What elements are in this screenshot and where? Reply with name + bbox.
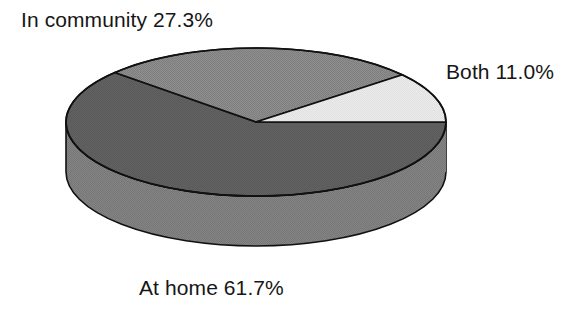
pie-chart: In community 27.3% Both 11.0% At home 61… [0, 0, 587, 313]
pie-chart-graphic [0, 0, 587, 313]
slice-label-in-community: In community 27.3% [21, 8, 213, 32]
slice-label-at-home: At home 61.7% [139, 276, 284, 300]
slice-label-both: Both 11.0% [446, 60, 554, 84]
